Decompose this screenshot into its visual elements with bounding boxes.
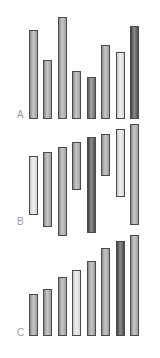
bar-b-7 <box>116 129 125 197</box>
bar-a-8 <box>130 26 139 119</box>
bar-c-3 <box>58 277 67 336</box>
bar-a-7 <box>116 52 125 119</box>
bar-b-2 <box>43 152 52 227</box>
bar-a-2 <box>43 60 52 119</box>
bar-b-3 <box>58 147 67 236</box>
bar-c-7 <box>116 241 125 336</box>
bar-a-6 <box>101 45 110 119</box>
bar-b-1 <box>29 156 38 215</box>
bar-c-2 <box>43 289 52 336</box>
bar-c-4 <box>72 270 81 336</box>
panel-label-b: B <box>17 217 24 227</box>
bar-b-5 <box>87 137 96 233</box>
bar-b-8 <box>130 124 139 225</box>
bar-a-3 <box>58 17 67 119</box>
bar-a-1 <box>29 30 38 119</box>
bar-b-4 <box>72 142 81 190</box>
bar-c-6 <box>101 248 110 336</box>
bar-a-5 <box>87 77 96 119</box>
bar-c-1 <box>29 294 38 336</box>
bar-c-5 <box>87 261 96 336</box>
bar-b-6 <box>101 134 110 176</box>
bar-c-8 <box>130 235 139 336</box>
panel-label-c: C <box>17 328 24 338</box>
bar-a-4 <box>72 71 81 119</box>
panel-label-a: A <box>17 110 24 120</box>
